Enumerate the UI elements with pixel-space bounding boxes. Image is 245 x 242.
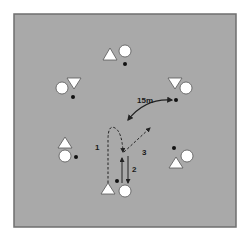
ball-icon: [174, 98, 178, 102]
circle-player-icon: [181, 150, 193, 162]
ball-icon: [115, 179, 119, 183]
ball-icon: [74, 155, 78, 159]
ball-icon: [172, 146, 176, 150]
drill-diagram: 15m 1 2 3: [0, 0, 245, 242]
circle-player-icon: [119, 185, 131, 197]
circle-player-icon: [119, 45, 131, 57]
circle-player-icon: [59, 150, 71, 162]
distance-label: 15m: [137, 96, 153, 105]
run-label-2: 2: [132, 165, 137, 174]
run-label-3: 3: [142, 148, 147, 157]
circle-player-icon: [180, 82, 192, 94]
run-label-1: 1: [95, 143, 100, 152]
ball-icon: [71, 95, 75, 99]
ball-icon: [123, 62, 127, 66]
circle-player-icon: [56, 82, 68, 94]
